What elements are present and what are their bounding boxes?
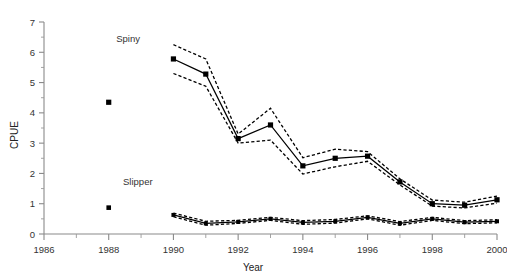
- data-point-marker: [269, 217, 273, 221]
- data-point-marker: [333, 219, 337, 223]
- series-annotation-spiny: Spiny: [116, 33, 140, 44]
- y-tick-label: 5: [30, 77, 35, 88]
- y-tick-label: 7: [30, 17, 35, 28]
- data-point-marker: [398, 221, 402, 225]
- cpue-year-line-chart: 01234567 1986198819901992199419961998200…: [0, 0, 507, 278]
- data-point-marker: [397, 179, 402, 184]
- x-tick-label: 1996: [357, 244, 378, 255]
- series-annotation-slipper: Slipper: [123, 176, 153, 187]
- data-point-marker: [366, 215, 370, 219]
- y-tick-label: 0: [30, 229, 35, 240]
- x-tick-label: 1988: [98, 244, 119, 255]
- data-point-marker: [171, 213, 175, 217]
- y-tick-label: 6: [30, 47, 35, 58]
- isolated-data-point-slipper: [106, 205, 111, 210]
- data-point-marker: [462, 203, 467, 208]
- y-tick-label: 1: [30, 198, 35, 209]
- data-point-marker: [300, 163, 305, 168]
- data-point-marker: [495, 219, 499, 223]
- data-point-marker: [203, 71, 208, 76]
- x-tick-label: 1994: [292, 244, 313, 255]
- data-point-marker: [430, 217, 434, 221]
- x-tick-label: 1998: [422, 244, 443, 255]
- data-point-marker: [268, 122, 273, 127]
- data-point-marker: [236, 136, 241, 141]
- data-point-marker: [301, 220, 305, 224]
- y-tick-label: 2: [30, 168, 35, 179]
- x-tick-label: 1992: [228, 244, 249, 255]
- chart-figure: 01234567 1986198819901992199419961998200…: [0, 0, 507, 278]
- x-tick-label: 2000: [486, 244, 507, 255]
- data-point-marker: [494, 197, 499, 202]
- x-tick-label: 1986: [33, 244, 54, 255]
- data-point-marker: [333, 156, 338, 161]
- data-point-marker: [463, 220, 467, 224]
- y-tick-label: 4: [30, 107, 35, 118]
- data-point-marker: [430, 201, 435, 206]
- data-point-marker: [365, 154, 370, 159]
- y-axis-title: CPUE: [9, 121, 20, 149]
- x-axis-title: Year: [243, 262, 264, 273]
- data-point-marker: [204, 221, 208, 225]
- x-tick-label: 1990: [163, 244, 184, 255]
- y-tick-label: 3: [30, 138, 35, 149]
- data-point-marker: [171, 56, 176, 61]
- isolated-data-point-spiny: [106, 100, 111, 105]
- data-point-marker: [236, 220, 240, 224]
